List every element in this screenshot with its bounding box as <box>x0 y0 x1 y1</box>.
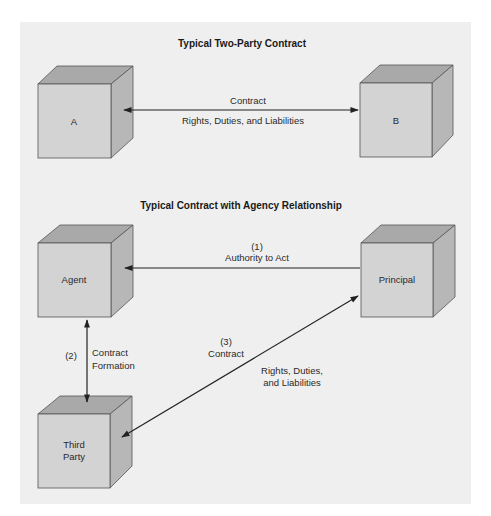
rights-label: Rights, Duties, and Liabilities <box>182 115 304 126</box>
contract-label: Contract <box>230 95 266 106</box>
box-agent-label: Agent <box>62 274 87 285</box>
contract-diagram: Typical Two-Party Contract A B Contract … <box>0 0 491 516</box>
contract-diagonal-label: Contract <box>208 348 244 359</box>
box-principal: Principal <box>361 225 455 317</box>
box-agent: Agent <box>38 225 133 317</box>
formation-label-line1: Contract <box>92 347 128 358</box>
formation-number: (2) <box>65 350 77 361</box>
two-party-title: Typical Two-Party Contract <box>178 38 307 49</box>
formation-label-line2: Formation <box>92 360 135 371</box>
box-a-label: A <box>71 116 78 127</box>
box-a: A <box>38 66 133 158</box>
box-third-party-label-line2: Party <box>63 451 85 462</box>
rights-diagonal-line2: and Liabilities <box>263 377 321 388</box>
authority-number: (1) <box>251 241 263 252</box>
agency-title: Typical Contract with Agency Relationshi… <box>140 200 342 211</box>
contract-number: (3) <box>220 336 232 347</box>
authority-label: Authority to Act <box>225 252 289 263</box>
box-third-party-label-line1: Third <box>63 439 85 450</box>
box-third-party: Third Party <box>38 396 132 488</box>
box-principal-label: Principal <box>379 274 415 285</box>
box-b: B <box>360 65 453 157</box>
rights-diagonal-line1: Rights, Duties, <box>261 365 323 376</box>
box-b-label: B <box>393 115 399 126</box>
